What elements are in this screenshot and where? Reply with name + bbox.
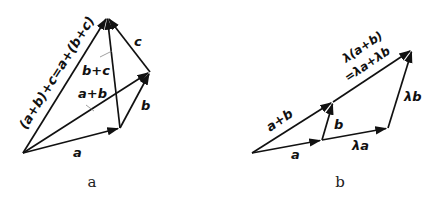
figure-b: a λa b λb a+b λ(a+b) =λa+λb b bbox=[252, 29, 422, 191]
leader-line-b-plus-c bbox=[100, 51, 112, 57]
figure-a: a b c a+b b+c (a+b)+c=a+(b+c) a bbox=[16, 14, 150, 191]
vector-c bbox=[109, 19, 150, 72]
vector-a bbox=[23, 129, 118, 154]
caption-a: a bbox=[88, 173, 97, 191]
label-a-plus-b: a+b bbox=[263, 106, 295, 135]
label-a: a bbox=[73, 145, 82, 160]
vector-addition-diagrams: a b c a+b b+c (a+b)+c=a+(b+c) a a λa b λ… bbox=[0, 0, 446, 205]
label-a-plus-b: a+b bbox=[78, 86, 107, 101]
label-lambda-b: λb bbox=[403, 89, 422, 104]
label-a: a bbox=[291, 147, 300, 162]
vector-b bbox=[322, 104, 333, 140]
label-c: c bbox=[134, 34, 142, 49]
label-b-plus-c: b+c bbox=[82, 63, 110, 78]
caption-b: b bbox=[335, 173, 345, 191]
label-lambda-a: λa bbox=[351, 138, 369, 153]
label-b: b bbox=[141, 98, 150, 113]
label-b: b bbox=[334, 117, 343, 132]
